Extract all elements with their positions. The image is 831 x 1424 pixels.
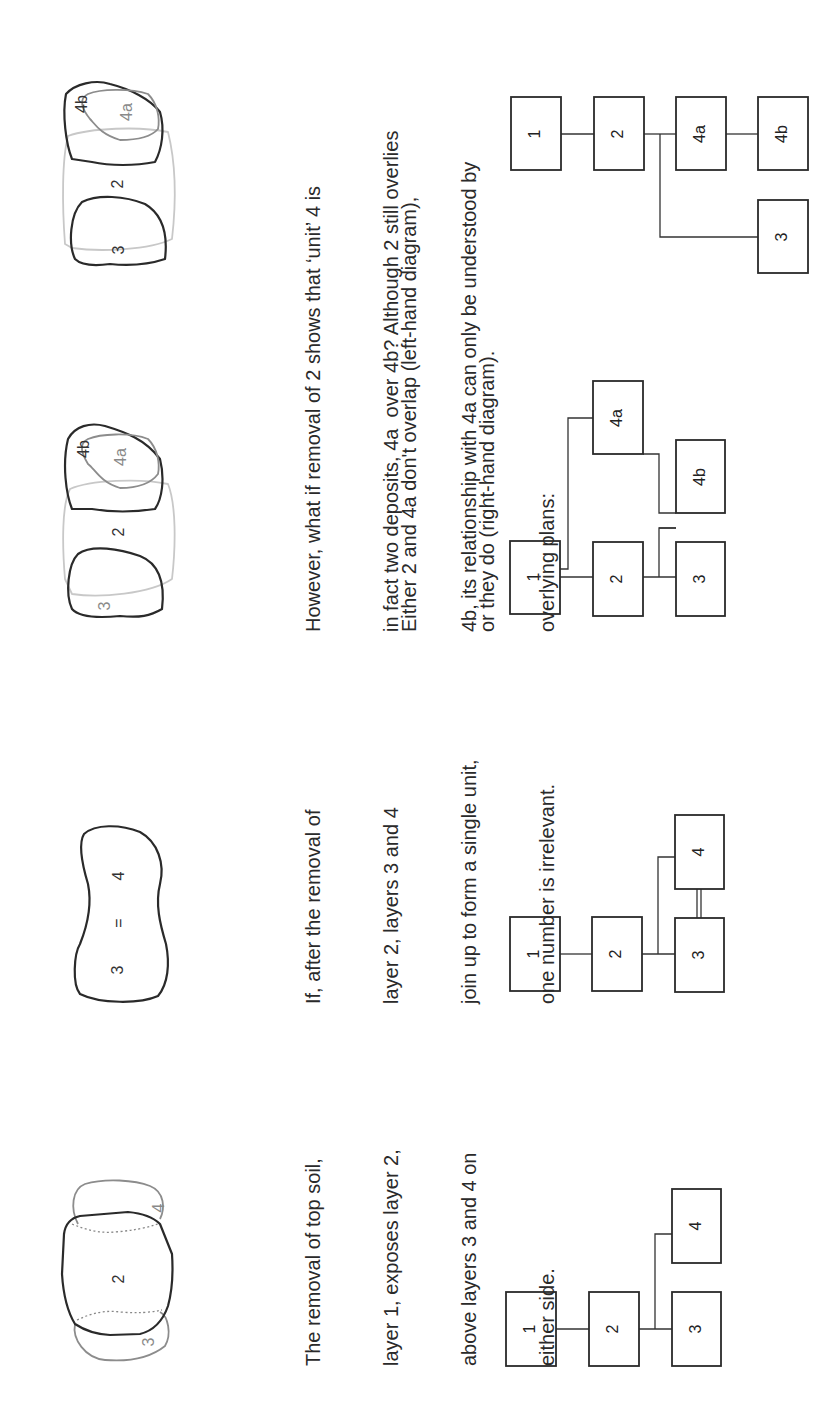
plan-label-4b: 4b — [73, 95, 90, 113]
matrix-box-4-label: 4 — [687, 1221, 704, 1230]
matrix-box-3-label: 3 — [773, 232, 790, 241]
plan-layer-2 — [63, 481, 174, 596]
plan-label-3: 3 — [96, 601, 113, 610]
matrix-box-4a-label: 4a — [691, 125, 708, 143]
plan-step-4: 4b 4a 2 3 — [63, 82, 175, 265]
matrix-box-3-label: 3 — [691, 574, 708, 583]
plan-label-4: 4 — [110, 871, 127, 880]
caption-line: either side. — [534, 1149, 560, 1366]
plan-layer-2 — [62, 1212, 173, 1335]
plan-layer-3 — [68, 548, 163, 617]
caption-line: layer 1, exposes layer 2, — [378, 1149, 404, 1366]
matrix-box-4-label: 4 — [690, 847, 707, 856]
matrix-box-4b-label: 4b — [691, 468, 708, 486]
plan-label-4: 4 — [150, 1203, 167, 1212]
plan-label-3: 3 — [110, 245, 127, 254]
plan-label-equals: = — [110, 918, 127, 927]
caption-line: layer 2, layers 3 and 4 — [378, 759, 404, 1004]
plan-layer-4b — [65, 425, 162, 512]
plan-label-2: 2 — [110, 1274, 127, 1283]
plan-step-3: 4b 4a 2 3 — [63, 425, 174, 618]
caption-line: However, what if removal of 2 shows that… — [300, 131, 326, 632]
plan-step-1: 2 3 4 — [62, 1180, 173, 1360]
caption-step-2: If, after the removal of layer 2, layers… — [248, 759, 612, 1004]
plan-layer-3 — [75, 1312, 169, 1360]
plan-label-3: 3 — [109, 965, 126, 974]
matrix-box-4b-label: 4b — [773, 125, 790, 143]
plan-layer-2 — [63, 129, 175, 250]
plan-step-2: 3 = 4 — [75, 826, 168, 1002]
caption-line: If, after the removal of — [300, 759, 326, 1004]
caption-step-3-choice: Either 2 and 4a don't overlap (left-hand… — [344, 197, 552, 632]
caption-line: join up to form a single unit, — [456, 759, 482, 1004]
caption-line: Either 2 and 4a don't overlap (left-hand… — [396, 197, 422, 632]
rotated-page: 2 3 4 3 = 4 4b 4a 2 3 — [0, 0, 831, 1424]
plan-label-4b: 4b — [75, 440, 92, 458]
matrix-box-3-label: 3 — [687, 1324, 704, 1333]
caption-line: above layers 3 and 4 on — [456, 1149, 482, 1366]
plan-layer-3-4-merged — [75, 826, 168, 1002]
plan-label-2: 2 — [109, 179, 126, 188]
caption-step-1: The removal of top soil, layer 1, expose… — [248, 1149, 612, 1366]
caption-line: one number is irrelevant. — [534, 759, 560, 1004]
plan-label-4a: 4a — [118, 103, 135, 121]
caption-line: or they do (right-hand diagram). — [474, 197, 500, 632]
plan-label-3: 3 — [140, 1337, 157, 1346]
matrix-box-3-label: 3 — [690, 950, 707, 959]
plan-label-4a: 4a — [112, 448, 129, 466]
caption-line: The removal of top soil, — [300, 1149, 326, 1366]
plan-label-2: 2 — [110, 527, 127, 536]
plan-layer-3 — [71, 197, 166, 265]
